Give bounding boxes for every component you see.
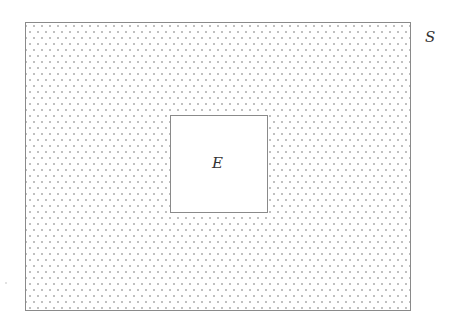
stray-mark — [5, 282, 6, 283]
universe-label: S — [425, 30, 435, 45]
set-diagram — [0, 0, 459, 333]
subset-label: E — [212, 156, 223, 171]
